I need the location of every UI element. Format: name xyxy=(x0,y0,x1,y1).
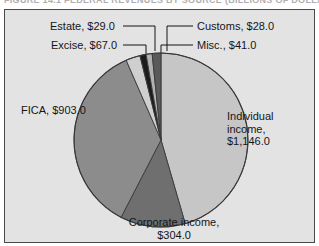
pie-chart xyxy=(73,52,249,228)
pie-chart-svg xyxy=(73,52,249,228)
figure-panel-inner: Estate, $29.0 Excise, $67.0 Customs, $28… xyxy=(5,10,314,242)
figure-caption-text: FIGURE 14.1 FEDERAL REVENUES BY SOURCE (… xyxy=(4,0,319,5)
pie-label-misc: Misc., $41.0 xyxy=(197,39,256,52)
pie-label-individual-income: Individual income, $1,146.0 xyxy=(227,110,299,148)
figure-panel: Estate, $29.0 Excise, $67.0 Customs, $28… xyxy=(4,9,315,243)
figure-caption-strip: FIGURE 14.1 FEDERAL REVENUES BY SOURCE (… xyxy=(0,0,319,9)
pie-label-excise: Excise, $67.0 xyxy=(51,39,117,52)
pie-label-corporate-income: Corporate income, $304.0 xyxy=(114,216,234,241)
pie-label-fica: FICA, $903.0 xyxy=(21,104,86,117)
pie-label-estate: Estate, $29.0 xyxy=(50,20,115,33)
pie-label-customs: Customs, $28.0 xyxy=(197,20,274,33)
